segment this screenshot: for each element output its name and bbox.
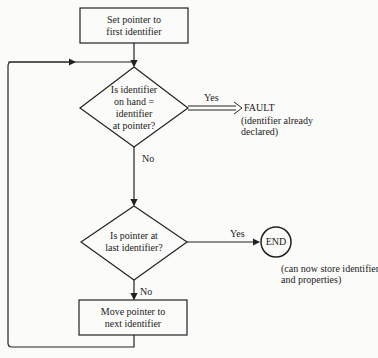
start-box-text: Set pointer to first identifier	[80, 14, 188, 38]
decision1-text: Is identifier on hand = identifier at po…	[84, 84, 184, 132]
decision2-text: Is pointer at last identifier?	[94, 230, 174, 254]
start-line1: Set pointer to	[80, 14, 188, 26]
d1-line1: Is identifier	[84, 84, 184, 96]
fault-label: FAULT	[244, 102, 275, 114]
move-line2: next identifier	[79, 318, 187, 330]
end-label: END	[262, 236, 290, 248]
end-note2: and properties)	[281, 274, 341, 286]
d1-line3: identifier	[84, 108, 184, 120]
move-box-text: Move pointer to next identifier	[79, 306, 187, 330]
d2-line2: last identifier?	[94, 242, 174, 254]
d1-yes-label: Yes	[204, 92, 219, 104]
d1-no-label: No	[142, 153, 154, 165]
fault-note2: declared)	[241, 126, 278, 138]
d2-line1: Is pointer at	[94, 230, 174, 242]
d2-yes-label: Yes	[230, 228, 245, 240]
move-line1: Move pointer to	[79, 306, 187, 318]
flowchart: Set pointer to first identifier Is ident…	[0, 0, 378, 358]
d2-no-label: No	[140, 286, 152, 298]
flowchart-lines	[0, 0, 378, 358]
start-line2: first identifier	[80, 26, 188, 38]
d1-line4: at pointer?	[84, 120, 184, 132]
d1-line2: on hand =	[84, 96, 184, 108]
